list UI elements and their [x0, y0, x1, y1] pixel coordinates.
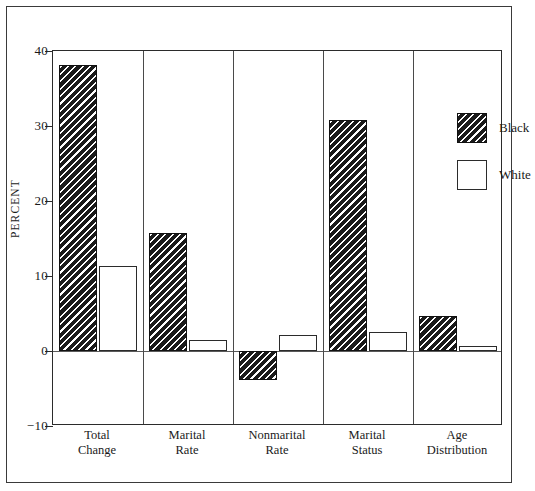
- y-axis-tick-label: 0: [41, 343, 48, 359]
- y-axis-tick-label: −10: [27, 418, 48, 434]
- x-axis-label-line: Status: [322, 443, 412, 458]
- x-axis-label-total-change: TotalChange: [52, 428, 142, 474]
- bar-white-total-change: [99, 266, 137, 352]
- x-axis-label-age-distribution: AgeDistribution: [412, 428, 502, 474]
- y-axis-title: PERCENT: [9, 179, 21, 238]
- figure-bottom-rule: [6, 482, 512, 483]
- bar-white-marital-rate: [189, 340, 227, 351]
- figure-top-rule: [6, 6, 512, 7]
- hatched-swatch: [457, 113, 487, 143]
- bar-black-nonmarital-rate: [239, 351, 277, 380]
- x-axis-label-line: Marital: [322, 428, 412, 443]
- x-axis-label-nonmarital-rate: NonmaritalRate: [232, 428, 322, 474]
- bar-black-age-distribution: [419, 316, 457, 351]
- bar-black-total-change: [59, 65, 97, 351]
- y-axis-tick-label: 20: [34, 193, 48, 209]
- bar-white-nonmarital-rate: [279, 335, 317, 352]
- bar-black-marital-rate: [149, 233, 187, 352]
- x-axis-label-line: Distribution: [412, 443, 502, 458]
- legend-item-black: Black: [457, 113, 535, 143]
- x-axis-label-line: Rate: [142, 443, 232, 458]
- x-axis-label-line: Nonmarital: [232, 428, 322, 443]
- figure-right-rule: [511, 6, 512, 483]
- group-separator: [323, 51, 324, 424]
- legend-item-label: Black: [499, 120, 529, 136]
- bar-white-marital-status: [369, 332, 407, 352]
- x-axis-label-line: Total: [52, 428, 142, 443]
- chart-legend: Black White: [457, 113, 535, 207]
- zero-baseline: [53, 351, 501, 352]
- white-swatch: [457, 160, 487, 190]
- x-axis-label-line: Marital: [142, 428, 232, 443]
- bar-black-marital-status: [329, 120, 367, 351]
- y-axis-tick-label: 10: [34, 268, 48, 284]
- group-separator: [143, 51, 144, 424]
- y-axis-tick-label: 30: [34, 118, 48, 134]
- x-axis-label-line: Rate: [232, 443, 322, 458]
- y-axis-tick-label: 40: [34, 43, 48, 59]
- legend-item-white: White: [457, 160, 535, 190]
- x-axis-labels: TotalChangeMaritalRateNonmaritalRateMari…: [52, 428, 502, 474]
- figure-left-rule: [6, 6, 7, 483]
- group-separator: [233, 51, 234, 424]
- group-separator: [413, 51, 414, 424]
- legend-item-label: White: [499, 167, 531, 183]
- x-axis-label-marital-rate: MaritalRate: [142, 428, 232, 474]
- plot-area: 403020100−10 Black White: [52, 50, 502, 425]
- x-axis-label-line: Change: [52, 443, 142, 458]
- x-axis-label-line: Age: [412, 428, 502, 443]
- x-axis-label-marital-status: MaritalStatus: [322, 428, 412, 474]
- bar-white-age-distribution: [459, 346, 497, 351]
